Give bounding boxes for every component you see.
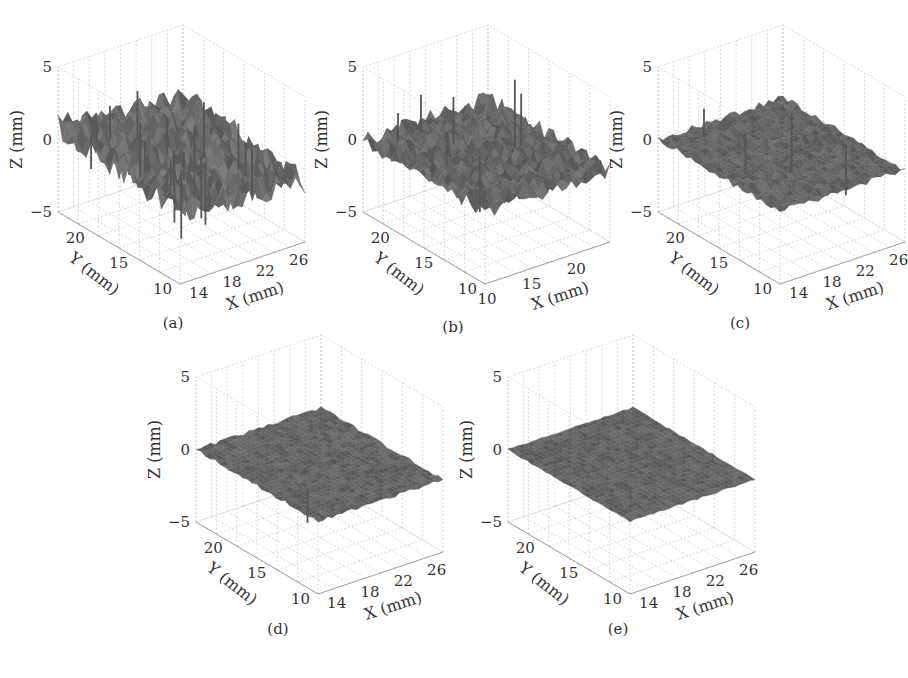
z-tick-label: 0 — [347, 131, 357, 149]
x-tick-label: 20 — [567, 260, 586, 278]
y-tick-label: 15 — [414, 254, 433, 272]
x-tick-label: 26 — [427, 561, 446, 579]
z-tick-label: 5 — [347, 58, 357, 76]
z-tick-label: 0 — [180, 441, 190, 459]
surface-mesh — [363, 80, 610, 216]
surface-plot-b: 50−5Z (mm)101520Y (mm)101520X (mm) — [335, 62, 625, 302]
caption-e: (e) — [598, 620, 638, 638]
y-tick-label: 20 — [371, 229, 390, 247]
subplot-d: 50−5Z (mm)101520Y (mm)14182226X (mm) — [168, 372, 458, 612]
y-tick-label: 10 — [753, 280, 772, 298]
z-axis-label: Z (mm) — [607, 110, 626, 169]
x-tick-label: 26 — [739, 561, 758, 579]
z-axis-label: Z (mm) — [457, 420, 476, 479]
z-tick-label: 0 — [42, 131, 52, 149]
y-tick-label: 10 — [458, 280, 477, 298]
z-axis-label: Z (mm) — [145, 420, 164, 479]
y-tick-label: 15 — [109, 254, 128, 272]
x-tick-label: 22 — [706, 572, 725, 590]
y-tick-label: 10 — [603, 590, 622, 608]
surface-mesh — [658, 96, 905, 212]
x-tick-label: 14 — [789, 284, 808, 302]
subplot-a: 50−5Z (mm)101520Y (mm)14182226X (mm) — [30, 62, 320, 302]
surface-plot-c: 50−5Z (mm)101520Y (mm)14182226X (mm) — [630, 62, 908, 302]
y-tick-label: 15 — [247, 564, 266, 582]
x-tick-label: 22 — [856, 262, 875, 280]
y-tick-label: 15 — [559, 564, 578, 582]
y-tick-label: 10 — [291, 590, 310, 608]
x-tick-label: 14 — [189, 284, 208, 302]
x-tick-label: 10 — [477, 290, 496, 308]
x-tick-label: 15 — [522, 275, 541, 293]
z-axis-label: Z (mm) — [312, 110, 331, 169]
z-tick-label: 5 — [42, 58, 52, 76]
x-tick-label: 26 — [289, 251, 308, 269]
surface-plot-a: 50−5Z (mm)101520Y (mm)14182226X (mm) — [30, 62, 320, 302]
surface-plot-d: 50−5Z (mm)101520Y (mm)14182226X (mm) — [168, 372, 458, 612]
z-tick-label: −5 — [30, 203, 52, 221]
x-tick-label: 18 — [672, 583, 691, 601]
x-tick-label: 22 — [394, 572, 413, 590]
y-tick-label: 15 — [709, 254, 728, 272]
z-tick-label: 5 — [492, 368, 502, 386]
y-tick-label: 10 — [153, 280, 172, 298]
x-tick-label: 22 — [256, 262, 275, 280]
subplot-e: 50−5Z (mm)101520Y (mm)14182226X (mm) — [480, 372, 770, 612]
z-tick-label: −5 — [168, 513, 190, 531]
caption-c: (c) — [720, 314, 760, 332]
z-tick-label: −5 — [335, 203, 357, 221]
y-tick-label: 20 — [66, 229, 85, 247]
caption-b: (b) — [433, 318, 473, 336]
z-axis-label: Z (mm) — [7, 110, 26, 169]
surface-mesh — [508, 407, 755, 522]
y-tick-label: 20 — [516, 539, 535, 557]
z-tick-label: −5 — [630, 203, 652, 221]
subplot-c: 50−5Z (mm)101520Y (mm)14182226X (mm) — [630, 62, 908, 302]
x-tick-label: 18 — [360, 583, 379, 601]
y-tick-label: 20 — [666, 229, 685, 247]
x-tick-label: 14 — [639, 594, 658, 612]
z-tick-label: 5 — [642, 58, 652, 76]
surface-mesh — [196, 406, 443, 522]
x-tick-label: 26 — [889, 251, 908, 269]
caption-a: (a) — [153, 314, 193, 332]
caption-d: (d) — [258, 620, 298, 638]
z-tick-label: 0 — [642, 131, 652, 149]
surface-mesh — [58, 90, 305, 239]
z-tick-label: −5 — [480, 513, 502, 531]
subplot-b: 50−5Z (mm)101520Y (mm)101520X (mm) — [335, 62, 625, 302]
x-tick-label: 18 — [822, 273, 841, 291]
z-tick-label: 5 — [180, 368, 190, 386]
z-tick-label: 0 — [492, 441, 502, 459]
x-tick-label: 14 — [327, 594, 346, 612]
x-tick-label: 18 — [222, 273, 241, 291]
y-tick-label: 20 — [204, 539, 223, 557]
surface-plot-e: 50−5Z (mm)101520Y (mm)14182226X (mm) — [480, 372, 770, 612]
